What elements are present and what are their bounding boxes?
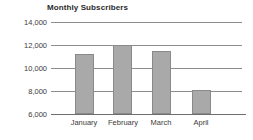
bar-april: [192, 90, 211, 114]
bar-february: [113, 45, 132, 114]
bar-chart: Monthly Subscribers 14,000 12,000 10,000…: [0, 0, 253, 140]
bar-march: [152, 51, 171, 114]
y-axis-tick-label: 12,000: [3, 41, 47, 50]
plot-area: [51, 22, 242, 114]
bar-january: [75, 54, 94, 114]
y-axis-tick-label: 10,000: [3, 64, 47, 73]
gridline-14000: [51, 22, 242, 23]
y-axis-tick-label: 6,000: [3, 110, 47, 119]
gridline-12000: [51, 45, 242, 46]
x-axis-label-february: February: [108, 118, 138, 127]
y-axis-tick-label: 8,000: [3, 87, 47, 96]
y-axis-tick-label: 14,000: [3, 18, 47, 27]
chart-title: Monthly Subscribers: [47, 3, 128, 12]
x-axis-label-march: March: [151, 118, 172, 127]
x-axis-label-april: April: [193, 118, 208, 127]
axis-baseline: [51, 114, 246, 115]
x-axis-label-january: January: [71, 118, 98, 127]
